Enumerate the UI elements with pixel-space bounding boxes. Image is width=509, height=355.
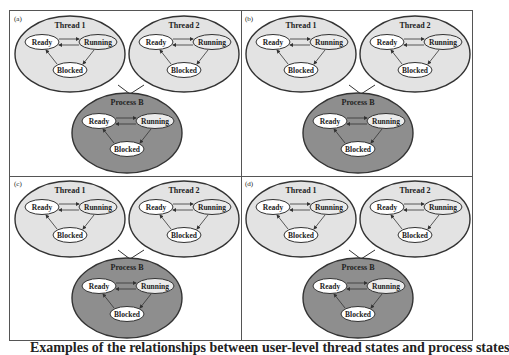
state-label-running: Running [315,38,343,47]
panel-label: (d) [245,180,254,188]
thread-1-title: Thread 1 [285,21,316,30]
state-node-blocked: Blocked [398,228,432,243]
state-node-ready: Ready [82,279,116,294]
state-label-blocked: Blocked [57,231,84,240]
panel-c: (c) Thread 1ReadyRunningBlocked Thread 2… [10,176,241,341]
state-node-running: Running [424,200,462,215]
state-node-running: Running [193,200,231,215]
thread-2-title: Thread 2 [399,21,430,30]
state-node-ready: Ready [25,200,59,215]
thread-1-title: Thread 1 [285,186,316,195]
state-label-ready: Ready [263,38,284,47]
state-label-ready: Ready [32,38,53,47]
panel-label: (a) [14,15,22,23]
thread-1-title: Thread 1 [54,186,85,195]
state-label-blocked: Blocked [345,145,372,154]
panel-b: (b) Thread 1ReadyRunningBlocked Thread 2… [241,11,472,176]
state-node-ready: Ready [370,200,404,215]
figure-caption: Examples of the relationships between us… [30,341,509,355]
state-label-ready: Ready [320,282,341,291]
thread-2-title: Thread 2 [168,186,199,195]
state-label-running: Running [429,203,457,212]
figure-frame: (a) Thread 1ReadyRunningBlocked Thread 2… [9,10,473,341]
state-node-ready: Ready [25,35,59,50]
state-node-running: Running [367,279,405,294]
state-node-blocked: Blocked [284,228,318,243]
state-label-blocked: Blocked [57,66,84,75]
state-label-ready: Ready [263,203,284,212]
process-b: Process BReadyRunningBlocked [72,93,182,173]
process-b: Process BReadyRunningBlocked [303,258,413,338]
process-b-title: Process B [342,98,376,107]
state-node-running: Running [79,200,117,215]
state-node-running: Running [136,279,174,294]
state-label-running: Running [372,282,400,291]
state-label-ready: Ready [320,117,341,126]
state-label-running: Running [429,38,457,47]
thread-2: Thread 2ReadyRunningBlocked [360,16,470,92]
state-label-ready: Ready [377,38,398,47]
state-node-ready: Ready [256,35,290,50]
process-b-title: Process B [111,98,145,107]
state-node-ready: Ready [256,200,290,215]
state-node-blocked: Blocked [341,307,375,322]
state-node-running: Running [424,35,462,50]
state-node-ready: Ready [313,114,347,129]
state-label-ready: Ready [146,203,167,212]
state-node-running: Running [193,35,231,50]
state-node-blocked: Blocked [53,228,87,243]
state-label-blocked: Blocked [114,310,141,319]
thread-2: Thread 2ReadyRunningBlocked [360,181,470,257]
state-node-running: Running [136,114,174,129]
state-label-blocked: Blocked [288,231,315,240]
state-label-blocked: Blocked [171,231,198,240]
panel-a: (a) Thread 1ReadyRunningBlocked Thread 2… [10,11,241,176]
thread-2: Thread 2ReadyRunningBlocked [129,16,239,92]
state-node-ready: Ready [370,35,404,50]
thread-1: Thread 1ReadyRunningBlocked [246,181,356,257]
state-label-running: Running [141,117,169,126]
state-label-running: Running [84,38,112,47]
state-label-blocked: Blocked [345,310,372,319]
state-node-blocked: Blocked [284,63,318,78]
state-node-ready: Ready [139,200,173,215]
state-node-blocked: Blocked [167,63,201,78]
process-b-title: Process B [111,263,145,272]
thread-1: Thread 1ReadyRunningBlocked [246,16,356,92]
state-label-ready: Ready [32,203,53,212]
thread-1: Thread 1ReadyRunningBlocked [15,16,125,92]
state-node-ready: Ready [313,279,347,294]
state-node-running: Running [367,114,405,129]
state-node-blocked: Blocked [398,63,432,78]
process-b: Process BReadyRunningBlocked [303,93,413,173]
state-label-running: Running [141,282,169,291]
state-node-blocked: Blocked [53,63,87,78]
state-node-blocked: Blocked [167,228,201,243]
state-node-running: Running [310,200,348,215]
state-label-blocked: Blocked [114,145,141,154]
state-label-running: Running [315,203,343,212]
state-node-blocked: Blocked [110,142,144,157]
state-node-running: Running [79,35,117,50]
state-label-running: Running [198,38,226,47]
thread-2-title: Thread 2 [399,186,430,195]
state-node-ready: Ready [82,114,116,129]
state-label-blocked: Blocked [171,66,198,75]
state-node-ready: Ready [139,35,173,50]
state-node-blocked: Blocked [341,142,375,157]
state-label-ready: Ready [146,38,167,47]
panel-label: (c) [14,180,22,188]
state-label-blocked: Blocked [288,66,315,75]
state-label-ready: Ready [377,203,398,212]
state-node-running: Running [310,35,348,50]
state-label-ready: Ready [89,282,110,291]
thread-2-title: Thread 2 [168,21,199,30]
process-b-title: Process B [342,263,376,272]
thread-2: Thread 2ReadyRunningBlocked [129,181,239,257]
state-label-running: Running [372,117,400,126]
panel-label: (b) [245,15,254,23]
thread-1: Thread 1ReadyRunningBlocked [15,181,125,257]
state-label-blocked: Blocked [402,66,429,75]
state-label-running: Running [198,203,226,212]
state-label-ready: Ready [89,117,110,126]
